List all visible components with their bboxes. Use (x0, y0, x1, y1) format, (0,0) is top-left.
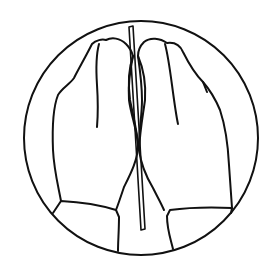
hands-illustration (0, 0, 277, 268)
left-hand (53, 38, 138, 210)
stick (129, 26, 145, 230)
illustration (0, 0, 277, 268)
right-finger-line (165, 44, 178, 124)
right-cuff (167, 208, 232, 249)
left-finger-line (96, 44, 99, 127)
right-hand (138, 39, 232, 210)
